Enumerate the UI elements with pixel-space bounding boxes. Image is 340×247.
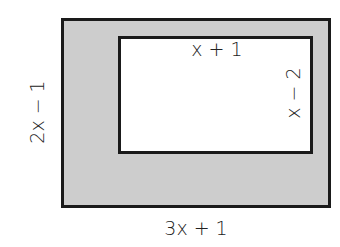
outer-width-label: 3x + 1: [164, 219, 227, 238]
outer-height-label: 2x − 1: [28, 80, 47, 143]
inner-height-label: x − 2: [284, 67, 303, 118]
inner-width-label: x + 1: [191, 40, 242, 59]
